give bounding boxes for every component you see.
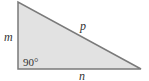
right-angle-label: 90° <box>23 56 38 68</box>
side-n-label: n <box>79 69 85 81</box>
side-m-label: m <box>4 30 13 44</box>
right-triangle-diagram: m p 90° n <box>0 0 149 81</box>
hypotenuse-p-label: p <box>79 19 86 33</box>
